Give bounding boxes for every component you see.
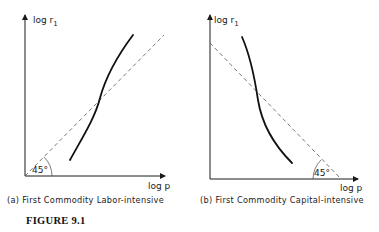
figure-canvas: log r1 45° log p (a) First Commodity Lab… [0,0,379,232]
reference-45-line-a [25,35,164,176]
reference-45-line-b [210,43,341,179]
y-axis-label-b: log r1 [214,15,239,28]
angle-label-b: 45° [314,168,330,178]
solid-curve-b [242,37,292,163]
x-axis-label-b: log p [340,183,363,193]
caption-a: (a) First Commodity Labor-intensive [7,195,164,205]
y-axis-label-a: log r1 [33,15,58,28]
x-axis-label-a: log p [148,181,171,191]
angle-label-a: 45° [32,165,48,175]
figure-title: FIGURE 9.1 [26,215,86,226]
panel-b: log r1 45° log p (b) First Commodity Cap… [200,15,364,205]
caption-b: (b) First Commodity Capital-intensive [200,195,364,205]
solid-curve-a [70,35,133,160]
panel-a: log r1 45° log p (a) First Commodity Lab… [7,15,171,205]
